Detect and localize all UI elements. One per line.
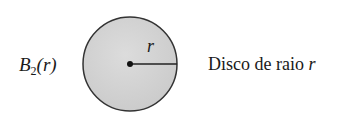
disc-description: Disco de raio r [208,54,315,75]
ball-argument: (r) [37,54,57,75]
description-variable: r [308,54,315,74]
ball-symbol: B [19,54,31,75]
radius-label: r [147,36,154,57]
ball-notation-label: B2(r) [19,54,57,79]
center-point [127,61,133,67]
description-text: Disco de raio [208,54,308,74]
